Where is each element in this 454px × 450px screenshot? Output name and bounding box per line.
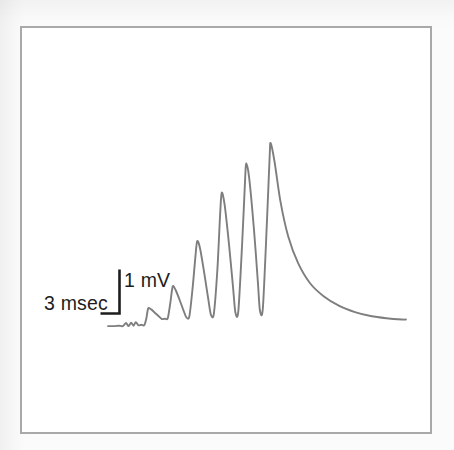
plot-frame-border — [20, 26, 432, 434]
time-scale-label: 3 msec — [44, 292, 108, 315]
voltage-scale-label: 1 mV — [124, 269, 170, 292]
figure-root: 3 msec 1 mV — [0, 0, 454, 450]
